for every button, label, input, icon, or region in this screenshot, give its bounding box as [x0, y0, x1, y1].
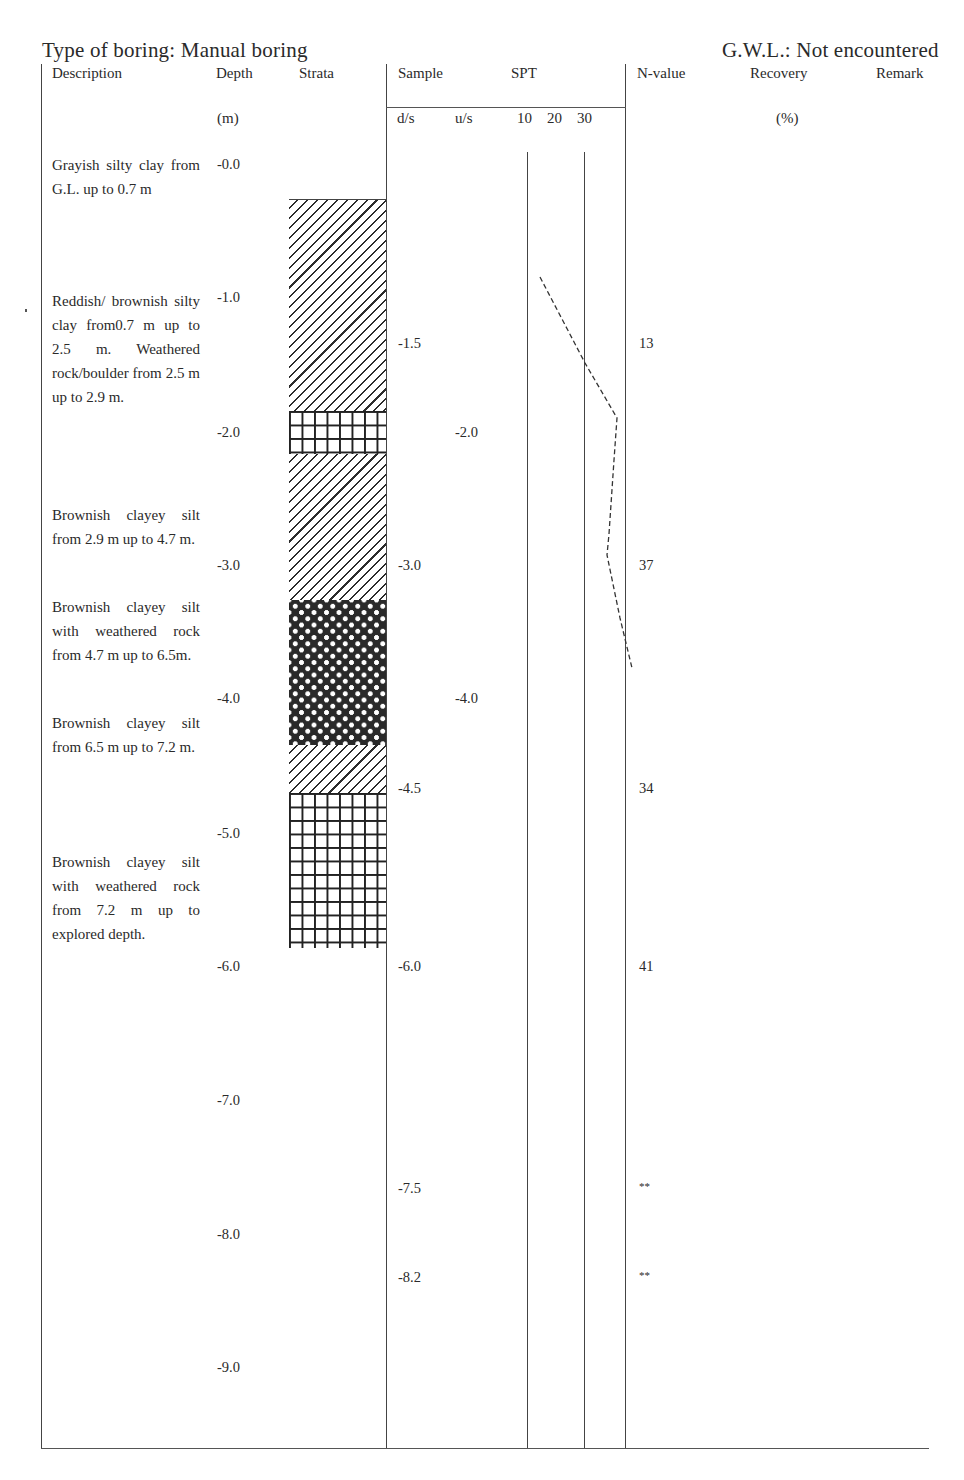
spt-curve [0, 0, 964, 1480]
stray-mark [25, 309, 27, 312]
